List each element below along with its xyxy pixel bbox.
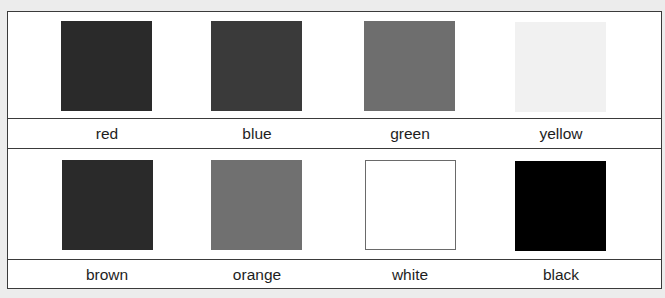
swatch-white — [365, 160, 456, 250]
label-orange: orange — [182, 260, 332, 290]
swatch-blue — [211, 21, 302, 111]
label-red: red — [32, 119, 182, 149]
label-yellow: yellow — [486, 119, 636, 149]
label-blue: blue — [182, 119, 332, 149]
swatch-brown — [62, 160, 153, 250]
row-separator — [8, 148, 661, 149]
label-white: white — [335, 260, 485, 290]
swatch-yellow — [515, 22, 606, 112]
swatch-orange — [211, 160, 302, 250]
label-brown: brown — [32, 260, 182, 290]
label-black: black — [486, 260, 636, 290]
swatch-red — [61, 21, 152, 111]
label-green: green — [335, 119, 485, 149]
swatch-black — [515, 161, 606, 251]
color-swatch-table: red blue green yellow brown orange white… — [7, 11, 662, 289]
swatch-green — [364, 21, 455, 111]
